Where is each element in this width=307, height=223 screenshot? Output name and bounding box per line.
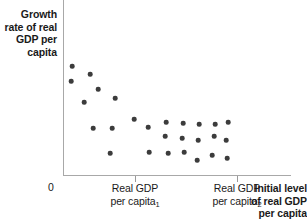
scatter-point <box>225 156 230 161</box>
scatter-point <box>210 153 215 158</box>
scatter-point <box>108 151 113 156</box>
scatter-chart-figure: Growth rate of real GDP per capita 0 Rea… <box>0 0 307 223</box>
tick-label-1-subscript: 1 <box>156 200 160 209</box>
scatter-point <box>88 72 93 77</box>
scatter-point <box>181 121 186 126</box>
scatter-point <box>91 126 96 131</box>
scatter-point <box>212 134 217 139</box>
tick-label-1-line-2: per capita <box>110 195 155 207</box>
y-axis-line <box>63 0 64 176</box>
scatter-point <box>163 134 168 139</box>
x-axis-label: Initial level of real GDP per capita <box>243 182 307 220</box>
scatter-point <box>147 150 152 155</box>
scatter-point <box>132 117 137 122</box>
scatter-point <box>224 138 229 143</box>
scatter-point <box>110 126 115 131</box>
y-axis-label: Growth rate of real GDP per capita <box>0 8 57 58</box>
scatter-point <box>164 120 169 125</box>
scatter-point <box>182 150 187 155</box>
scatter-point <box>213 122 218 127</box>
x-axis-tick-label-1: Real GDP per capita1 <box>92 182 178 209</box>
tick-label-1-line-1: Real GDP <box>112 182 158 194</box>
scatter-point <box>82 100 87 105</box>
scatter-point <box>96 87 101 92</box>
x-axis-line <box>63 175 291 176</box>
scatter-point <box>113 96 118 101</box>
scatter-point <box>70 64 75 69</box>
scatter-point <box>180 136 185 141</box>
scatter-point <box>69 79 74 84</box>
scatter-point <box>195 158 200 163</box>
scatter-point <box>166 151 171 156</box>
scatter-point <box>197 122 202 127</box>
scatter-point <box>146 125 151 130</box>
origin-label: 0 <box>44 181 58 193</box>
scatter-point <box>196 138 201 143</box>
scatter-point <box>226 120 231 125</box>
